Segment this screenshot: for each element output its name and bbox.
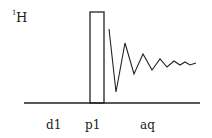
fid-signal	[109, 29, 196, 92]
pulse-sequence-diagram: 1 H d1 p1 aq	[0, 0, 212, 138]
pulse-label: p1	[85, 118, 100, 132]
nucleus-label: H	[16, 10, 27, 25]
acquisition-label: aq	[140, 118, 155, 132]
rf-pulse	[90, 12, 104, 103]
delay-label: d1	[46, 118, 61, 132]
